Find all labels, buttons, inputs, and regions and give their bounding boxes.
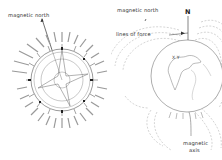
arrow-head-icon (41, 18, 44, 22)
lines-of-force-pointer (169, 33, 188, 35)
arrow-head-icon (181, 32, 185, 36)
pole-marker-label: X Y (172, 55, 180, 60)
north-label: N (185, 8, 190, 16)
pole-ticks (169, 112, 203, 119)
magnetic-north-label: magnetic north (8, 12, 49, 18)
magnetic-north-label: magnetic north (117, 7, 158, 13)
earth-globe (151, 40, 222, 112)
magnetic-axis-label-line1: magnetic (183, 140, 208, 146)
magnetic-north-arrow (42, 19, 52, 50)
compass-rose-diagram (0, 0, 111, 160)
needle-line (52, 50, 62, 80)
compass-star (38, 50, 88, 106)
magnetic-north-pointer (145, 19, 146, 21)
earth-field-diagram (111, 0, 222, 160)
lines-of-force-label: lines of force (116, 31, 151, 37)
compass-rose-panel: magnetic north (0, 0, 111, 160)
magnetic-axis-line (189, 112, 191, 136)
earth-field-panel: magnetic north N lines of force X Y magn… (111, 0, 222, 160)
tick-markers (28, 47, 93, 113)
magnetic-axis-label-line2: axis (189, 147, 200, 153)
